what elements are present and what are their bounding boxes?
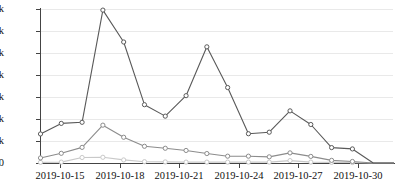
data-point-series-1-2019-10-20 <box>163 114 167 118</box>
data-point-series-1-2019-10-16 <box>80 120 84 124</box>
series-line-series-3 <box>41 157 395 163</box>
data-point-series-1-2019-10-21 <box>184 94 188 98</box>
data-point-series-3-2019-10-20 <box>163 160 167 164</box>
data-point-series-1-2019-10-29 <box>350 147 354 151</box>
data-point-series-2-2019-10-14 <box>38 156 42 160</box>
data-point-series-2-2019-10-15 <box>59 151 63 155</box>
data-point-series-1-2019-10-14 <box>38 132 42 136</box>
data-point-series-1-2019-10-23 <box>226 85 230 89</box>
data-point-series-3-2019-10-21 <box>184 160 188 164</box>
series-line-series-1 <box>41 10 395 163</box>
data-point-series-2-2019-10-28 <box>330 158 334 162</box>
data-point-series-3-2019-10-14 <box>38 160 42 164</box>
data-point-series-2-2019-10-27 <box>309 154 313 158</box>
caption-ghost <box>0 186 403 195</box>
data-point-series-2-2019-10-20 <box>163 146 167 150</box>
data-point-series-3-2019-10-15 <box>59 160 63 164</box>
data-point-series-2-2019-10-26 <box>288 151 292 155</box>
data-point-series-3-2019-10-23 <box>226 160 230 164</box>
data-point-series-2-2019-10-22 <box>205 151 209 155</box>
data-point-series-3-2019-10-16 <box>80 155 84 159</box>
data-point-series-3-2019-10-17 <box>101 155 105 159</box>
data-point-series-2-2019-10-24 <box>246 154 250 158</box>
data-point-series-3-2019-10-26 <box>288 158 292 162</box>
data-point-series-2-2019-10-21 <box>184 148 188 152</box>
data-point-series-1-2019-10-28 <box>330 146 334 150</box>
data-point-series-2-2019-10-17 <box>101 123 105 127</box>
data-point-series-1-2019-10-26 <box>288 109 292 113</box>
data-point-series-1-2019-10-18 <box>122 40 126 44</box>
data-point-series-1-2019-10-19 <box>142 103 146 107</box>
data-point-series-2-2019-10-19 <box>142 144 146 148</box>
data-point-series-3-2019-10-18 <box>122 158 126 162</box>
line-chart: 70k 60k 50k 40k 30k 20k 10k 0 2019-10-15… <box>0 0 403 195</box>
data-point-series-1-2019-10-24 <box>246 132 250 136</box>
data-point-series-1-2019-10-25 <box>267 130 271 134</box>
data-point-series-3-2019-10-25 <box>267 160 271 164</box>
data-point-series-3-2019-10-22 <box>205 160 209 164</box>
data-point-series-2-2019-10-25 <box>267 155 271 159</box>
data-point-series-2-2019-10-18 <box>122 135 126 139</box>
data-point-series-3-2019-10-24 <box>246 160 250 164</box>
data-point-series-3-2019-10-27 <box>309 160 313 164</box>
data-point-series-1-2019-10-22 <box>205 45 209 49</box>
data-point-series-2-2019-10-16 <box>80 145 84 149</box>
series-layer <box>0 0 403 195</box>
data-point-series-3-2019-10-19 <box>142 160 146 164</box>
data-point-series-1-2019-10-27 <box>309 122 313 126</box>
data-point-series-2-2019-10-23 <box>226 154 230 158</box>
data-point-series-1-2019-10-17 <box>101 8 105 12</box>
data-point-series-2-2019-10-29 <box>350 159 354 163</box>
data-point-series-1-2019-10-15 <box>59 121 63 125</box>
